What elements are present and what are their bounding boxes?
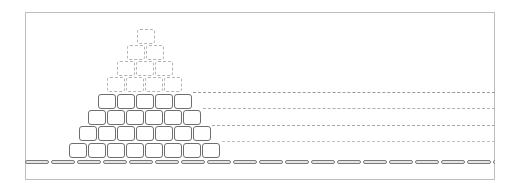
track-segment: [311, 160, 335, 164]
track-segment: [25, 160, 49, 164]
pyramid-block: [145, 143, 163, 158]
pyramid-block: [183, 110, 201, 125]
dashed-guide-line: [203, 108, 495, 109]
pyramid-block: [164, 110, 182, 125]
track-segment: [467, 160, 491, 164]
pyramid-block: [174, 94, 192, 109]
pyramid-block: [164, 143, 182, 158]
pyramid-block: [137, 29, 155, 44]
pyramid-block: [126, 143, 144, 158]
track-segment: [389, 160, 413, 164]
track-segment: [337, 160, 361, 164]
dashed-guide-line: [222, 141, 495, 142]
track-segment: [51, 160, 75, 164]
pyramid-block: [145, 77, 163, 92]
track-segment: [129, 160, 153, 164]
pyramid-block: [79, 126, 97, 141]
pyramid-block: [136, 126, 154, 141]
pyramid-block: [98, 94, 116, 109]
pyramid-block: [136, 94, 154, 109]
track-segment: [415, 160, 439, 164]
pyramid-block: [146, 45, 164, 60]
track-segment: [259, 160, 283, 164]
track-segment: [363, 160, 387, 164]
ground-track: [25, 160, 495, 165]
pyramid-block: [117, 126, 135, 141]
pyramid-block: [126, 77, 144, 92]
pyramid-block: [127, 45, 145, 60]
track-segment: [181, 160, 205, 164]
pyramid-block: [126, 110, 144, 125]
track-segment: [233, 160, 257, 164]
pyramid-block: [107, 143, 125, 158]
track-segment: [493, 160, 495, 164]
pyramid-block: [174, 126, 192, 141]
pyramid-block: [107, 110, 125, 125]
track-segment: [103, 160, 127, 164]
pyramid-block: [117, 61, 135, 76]
pyramid-block: [155, 126, 173, 141]
pyramid-block: [88, 143, 106, 158]
track-segment: [207, 160, 231, 164]
pyramid-block: [155, 61, 173, 76]
pyramid-block: [155, 94, 173, 109]
pyramid-block: [164, 77, 182, 92]
track-segment: [441, 160, 465, 164]
pyramid-block: [136, 61, 154, 76]
track-segment: [155, 160, 179, 164]
pyramid-block: [193, 126, 211, 141]
pyramid-block: [117, 94, 135, 109]
pyramid-block: [88, 110, 106, 125]
pyramid-block: [98, 126, 116, 141]
dashed-guide-line: [193, 92, 495, 93]
pyramid-block: [69, 143, 87, 158]
pyramid-block: [107, 77, 125, 92]
track-segment: [285, 160, 309, 164]
pyramid-block: [183, 143, 201, 158]
dashed-guide-line: [212, 125, 495, 126]
track-segment: [77, 160, 101, 164]
pyramid-block: [202, 143, 220, 158]
pyramid-block: [145, 110, 163, 125]
